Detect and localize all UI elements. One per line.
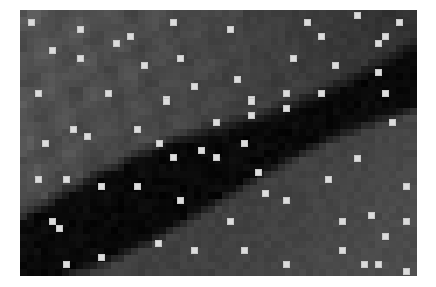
point-marker xyxy=(127,33,134,40)
point-marker xyxy=(191,83,198,90)
point-marker xyxy=(141,62,148,69)
point-marker xyxy=(98,254,105,261)
point-marker xyxy=(241,247,248,254)
point-marker xyxy=(382,90,389,97)
point-marker xyxy=(177,55,184,62)
point-marker xyxy=(70,126,77,133)
point-marker xyxy=(318,33,325,40)
point-marker xyxy=(170,19,177,26)
point-marker xyxy=(403,268,410,275)
point-marker xyxy=(354,155,361,162)
point-marker xyxy=(177,197,184,204)
point-marker xyxy=(155,240,162,247)
point-marker xyxy=(49,218,56,225)
point-marker xyxy=(234,76,241,83)
point-marker xyxy=(170,154,177,161)
point-marker xyxy=(368,212,375,219)
point-marker xyxy=(77,26,84,33)
point-marker xyxy=(49,47,56,54)
point-marker xyxy=(191,247,198,254)
point-marker xyxy=(42,140,49,147)
point-marker xyxy=(382,233,389,240)
point-marker xyxy=(262,190,269,197)
point-marker xyxy=(248,112,255,119)
point-marker xyxy=(396,19,403,26)
point-marker xyxy=(105,90,112,97)
point-marker xyxy=(290,55,297,62)
point-marker xyxy=(77,55,84,62)
point-marker xyxy=(28,19,35,26)
grayscale-raster-image xyxy=(20,10,417,276)
point-marker xyxy=(35,176,42,183)
point-marker xyxy=(403,183,410,190)
point-marker xyxy=(375,69,382,76)
point-marker xyxy=(213,154,220,161)
point-marker xyxy=(375,261,382,268)
point-marker xyxy=(354,12,361,19)
point-marker xyxy=(382,33,389,40)
point-marker xyxy=(283,105,290,112)
point-marker xyxy=(134,126,141,133)
point-marker xyxy=(339,218,346,225)
point-marker xyxy=(113,40,120,47)
point-marker xyxy=(403,218,410,225)
point-marker xyxy=(63,261,70,268)
point-marker xyxy=(283,90,290,97)
point-marker xyxy=(255,169,262,176)
raster-canvas xyxy=(20,10,417,276)
point-marker xyxy=(389,119,396,126)
point-marker xyxy=(227,218,234,225)
point-marker xyxy=(361,261,368,268)
point-marker xyxy=(375,40,382,47)
point-marker xyxy=(63,176,70,183)
point-marker xyxy=(339,247,346,254)
point-marker xyxy=(227,26,234,33)
point-marker xyxy=(248,98,255,105)
point-marker xyxy=(35,90,42,97)
image-viewer xyxy=(0,0,436,287)
point-marker xyxy=(156,140,163,147)
point-marker xyxy=(283,197,290,204)
point-marker xyxy=(213,119,220,126)
point-marker xyxy=(98,183,105,190)
point-marker xyxy=(325,176,332,183)
point-marker xyxy=(283,261,290,268)
point-marker xyxy=(241,140,248,147)
point-marker xyxy=(163,98,170,105)
point-marker xyxy=(304,19,311,26)
point-marker xyxy=(56,225,63,232)
point-marker xyxy=(84,133,91,140)
point-marker xyxy=(318,90,325,97)
point-marker xyxy=(134,183,141,190)
point-marker xyxy=(198,147,205,154)
point-marker xyxy=(332,62,339,69)
